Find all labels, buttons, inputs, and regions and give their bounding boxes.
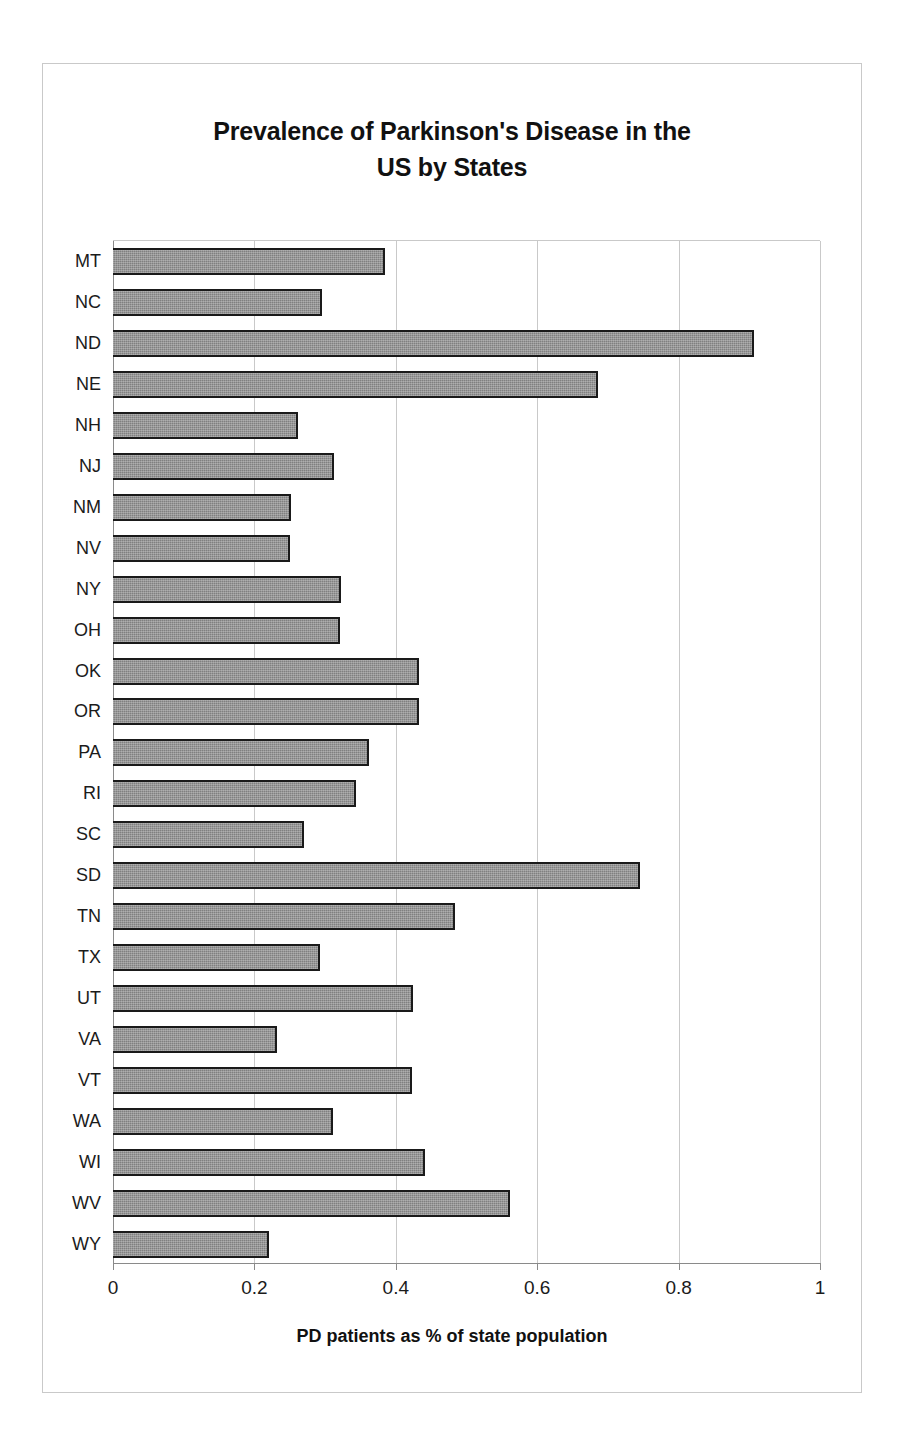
y-axis-label-tn: TN — [77, 906, 101, 927]
y-axis-label-vt: VT — [78, 1070, 101, 1091]
bar-row: NJ — [113, 446, 820, 487]
y-axis-label-nd: ND — [75, 333, 101, 354]
bar-row: RI — [113, 773, 820, 814]
y-axis-label-oh: OH — [74, 620, 101, 641]
x-axis-title: PD patients as % of state population — [43, 1326, 861, 1347]
bar-nm[interactable] — [113, 494, 291, 521]
y-axis-label-ut: UT — [77, 988, 101, 1009]
bar-rows: MTNCNDNENHNJNMNVNYOHOKORPARISCSDTNTXUTVA… — [113, 241, 820, 1263]
bar-or[interactable] — [113, 698, 419, 725]
y-axis-label-tx: TX — [78, 947, 101, 968]
x-axis-tick-label: 0.4 — [383, 1277, 409, 1299]
y-axis-label-mt: MT — [75, 251, 101, 272]
bar-row: NY — [113, 569, 820, 610]
bar-tx[interactable] — [113, 944, 320, 971]
bar-row: NE — [113, 364, 820, 405]
chart-title-line-2: US by States — [43, 150, 861, 186]
x-axis-tick-label: 1 — [815, 1277, 826, 1299]
bar-row: OR — [113, 691, 820, 732]
tickmark-1 — [820, 1263, 821, 1270]
bar-wa[interactable] — [113, 1108, 333, 1135]
bar-ri[interactable] — [113, 780, 356, 807]
y-axis-label-nj: NJ — [79, 456, 101, 477]
bar-row: UT — [113, 978, 820, 1019]
y-axis-label-wv: WV — [72, 1193, 101, 1214]
y-axis-label-va: VA — [78, 1029, 101, 1050]
bar-row: WA — [113, 1101, 820, 1142]
bar-wi[interactable] — [113, 1149, 425, 1176]
bar-row: VT — [113, 1060, 820, 1101]
tickmark-0 — [113, 1263, 114, 1270]
chart-title: Prevalence of Parkinson's Disease in the… — [43, 114, 861, 185]
plot-wrap: MTNCNDNENHNJNMNVNYOHOKORPARISCSDTNTXUTVA… — [113, 240, 820, 1264]
y-axis-label-sd: SD — [76, 865, 101, 886]
y-axis-label-wy: WY — [72, 1234, 101, 1255]
tickmark-0.8 — [679, 1263, 680, 1270]
bar-wy[interactable] — [113, 1231, 269, 1258]
y-axis-label-nc: NC — [75, 292, 101, 313]
bar-wv[interactable] — [113, 1190, 510, 1217]
bar-row: PA — [113, 732, 820, 773]
bar-nh[interactable] — [113, 412, 298, 439]
bar-ok[interactable] — [113, 658, 419, 685]
bar-ny[interactable] — [113, 576, 341, 603]
bar-pa[interactable] — [113, 739, 369, 766]
x-axis-tick-label: 0.6 — [524, 1277, 550, 1299]
bar-row: MT — [113, 241, 820, 282]
y-axis-label-ok: OK — [75, 661, 101, 682]
bar-oh[interactable] — [113, 617, 340, 644]
bar-ne[interactable] — [113, 371, 598, 398]
y-axis-label-nm: NM — [73, 497, 101, 518]
y-axis-label-wi: WI — [79, 1152, 101, 1173]
y-axis-label-wa: WA — [73, 1111, 101, 1132]
bar-tn[interactable] — [113, 903, 455, 930]
tickmark-0.4 — [396, 1263, 397, 1270]
y-axis-label-sc: SC — [76, 824, 101, 845]
chart-frame: Prevalence of Parkinson's Disease in the… — [42, 63, 862, 1393]
bar-ut[interactable] — [113, 985, 413, 1012]
bar-mt[interactable] — [113, 248, 385, 275]
bar-row: WI — [113, 1142, 820, 1183]
bar-nd[interactable] — [113, 330, 754, 357]
bar-va[interactable] — [113, 1026, 277, 1053]
y-axis-label-ri: RI — [83, 783, 101, 804]
bar-row: NC — [113, 282, 820, 323]
bar-row: NV — [113, 528, 820, 569]
y-axis-label-nv: NV — [76, 538, 101, 559]
y-axis-label-ne: NE — [76, 374, 101, 395]
bar-row: ND — [113, 323, 820, 364]
y-axis-label-nh: NH — [75, 415, 101, 436]
tickmark-0.2 — [254, 1263, 255, 1270]
bar-sc[interactable] — [113, 821, 304, 848]
bar-nv[interactable] — [113, 535, 290, 562]
x-axis-tick-label: 0.8 — [665, 1277, 691, 1299]
bar-row: SD — [113, 855, 820, 896]
chart-title-line-1: Prevalence of Parkinson's Disease in the — [43, 114, 861, 150]
bar-row: WY — [113, 1224, 820, 1265]
bar-sd[interactable] — [113, 862, 640, 889]
bar-row: TN — [113, 896, 820, 937]
bar-row: OK — [113, 651, 820, 692]
bar-nj[interactable] — [113, 453, 334, 480]
bar-row: OH — [113, 610, 820, 651]
bar-row: SC — [113, 814, 820, 855]
bar-vt[interactable] — [113, 1067, 412, 1094]
bar-row: TX — [113, 937, 820, 978]
chart-page: Prevalence of Parkinson's Disease in the… — [0, 0, 902, 1444]
bar-nc[interactable] — [113, 289, 322, 316]
y-axis-label-or: OR — [74, 701, 101, 722]
tickmark-0.6 — [537, 1263, 538, 1270]
plot-area: MTNCNDNENHNJNMNVNYOHOKORPARISCSDTNTXUTVA… — [113, 240, 820, 1264]
bar-row: NM — [113, 487, 820, 528]
x-axis-tick-label: 0 — [108, 1277, 119, 1299]
bar-row: VA — [113, 1019, 820, 1060]
bar-row: WV — [113, 1183, 820, 1224]
y-axis-label-pa: PA — [78, 742, 101, 763]
x-axis-tick-label: 0.2 — [241, 1277, 267, 1299]
bar-row: NH — [113, 405, 820, 446]
x-axis-ticks: 00.20.40.60.81 — [113, 1269, 820, 1299]
y-axis-label-ny: NY — [76, 579, 101, 600]
gridline-1 — [820, 241, 821, 1263]
